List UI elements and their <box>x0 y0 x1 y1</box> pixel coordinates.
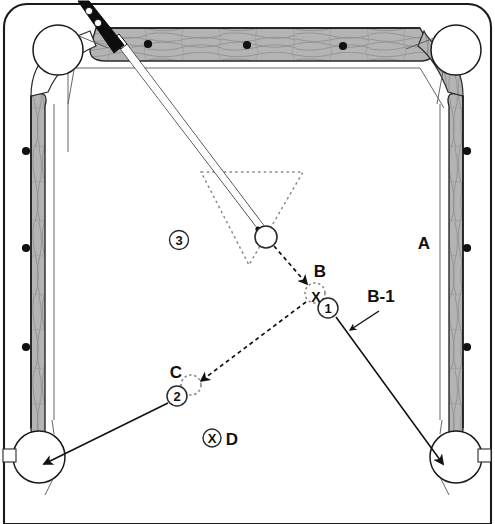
object-ball-1[interactable]: 1 <box>318 298 338 318</box>
bottom-right-pocket-notch <box>478 449 491 462</box>
sight-dot-left-1 <box>22 147 30 155</box>
cloth-area <box>48 76 446 444</box>
label-point-b: B <box>314 262 326 281</box>
left-rail <box>31 94 46 438</box>
region-marker-three-number: 3 <box>175 233 182 248</box>
cue-ring-inlay-1 <box>85 7 92 14</box>
sight-dot-right-3 <box>463 343 471 351</box>
right-rail <box>448 94 463 438</box>
region-marker-three: 3 <box>170 231 189 250</box>
cue-ring-inlay-2 <box>94 19 101 26</box>
sight-dot-top-1 <box>144 40 152 48</box>
cue-ball[interactable] <box>255 226 277 248</box>
spot-marker-x-letter: X <box>208 431 217 446</box>
object-ball-2-number: 2 <box>173 389 180 404</box>
playing-surface <box>48 68 446 444</box>
bottom-left-pocket-notch <box>3 449 16 462</box>
sight-dot-top-2 <box>243 41 251 49</box>
top-rail <box>90 28 432 61</box>
label-contact-x: X <box>311 289 321 305</box>
pool-table-diagram: 1 2 X 3 A B B-1 C D X <box>0 0 495 524</box>
diagram-canvas: 1 2 X 3 A B B-1 C D X <box>0 0 495 524</box>
sight-dot-right-1 <box>463 147 471 155</box>
sight-dot-left-2 <box>22 244 30 252</box>
label-point-c: C <box>170 363 182 382</box>
spot-marker-x: X <box>203 429 221 447</box>
label-point-b1: B-1 <box>367 287 394 306</box>
label-region-a: A <box>418 234 430 253</box>
object-ball-2[interactable]: 2 <box>167 386 187 406</box>
object-ball-1-number: 1 <box>324 301 331 316</box>
sight-dot-top-3 <box>339 42 347 50</box>
sight-dot-right-2 <box>463 244 471 252</box>
label-point-d: D <box>226 430 238 449</box>
sight-dot-left-3 <box>22 343 30 351</box>
